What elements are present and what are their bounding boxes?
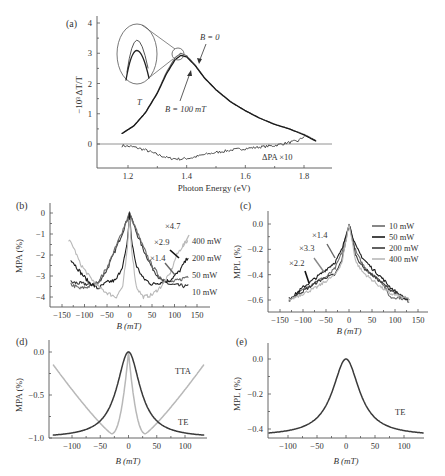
arrowhead-b0 xyxy=(197,58,202,64)
y-tick-label: −4 xyxy=(36,292,46,302)
x-tick-label: −50 xyxy=(100,310,113,320)
x-tick-label: −150 xyxy=(271,315,289,325)
y-tick-label: −0.2 xyxy=(248,389,263,399)
y-tick-label: 2 xyxy=(88,79,92,89)
x-tick-label: −50 xyxy=(310,441,323,451)
y-axis-title-a: −10³ ΔT/T xyxy=(74,76,84,114)
legend-c: 10 mW50 mW200 mW400 mW xyxy=(372,221,419,264)
series-400-mw xyxy=(69,220,188,299)
arrowhead-b100 xyxy=(187,70,192,76)
y-axis-title-e: MPL (%) xyxy=(232,377,242,411)
inset-ellipse xyxy=(117,24,157,84)
y-tick-label: 1 xyxy=(88,109,92,119)
label-b100: B = 100 mT xyxy=(165,104,207,114)
panel-b: (b) −150−100−500501001500−1−2−3−4 B (mT)… xyxy=(14,200,222,331)
x-tick-label: 100 xyxy=(398,441,411,451)
y-tick-label: −2 xyxy=(36,250,45,260)
panel-label-a: (a) xyxy=(66,18,77,30)
legend-b-400: 400 mW xyxy=(192,236,222,246)
x-tick-label: 150 xyxy=(412,315,425,325)
x-tick-label: 50 xyxy=(153,441,162,451)
y-tick-label: −0.6 xyxy=(248,295,263,305)
legend-label: 50 mW xyxy=(389,232,414,242)
y-axis-title-d: MPA (%) xyxy=(14,378,24,412)
label-tta: TTA xyxy=(175,366,192,376)
factor-b-47: ×4.7 xyxy=(165,221,180,231)
x-tick-label: −50 xyxy=(319,315,332,325)
label-te-e: TE xyxy=(395,407,405,417)
legend-b-200: 200 mW xyxy=(192,253,222,263)
panel-label-e: (e) xyxy=(236,336,247,348)
y-tick-label: −3 xyxy=(36,271,45,281)
figure: (a) 1.21.41.61.801234 Photon Energy (eV)… xyxy=(0,0,445,476)
y-tick-label: 4 xyxy=(88,18,93,28)
factor-b-29: ×2.9 xyxy=(154,237,169,247)
panel-label-b: (b) xyxy=(16,200,28,212)
arrow-b100 xyxy=(180,73,190,101)
x-axis-title-a: Photon Energy (eV) xyxy=(178,183,250,193)
panel-a: (a) 1.21.41.61.801234 Photon Energy (eV)… xyxy=(66,16,332,193)
y-tick-label: −1 xyxy=(36,229,45,239)
y-tick-label: 0 xyxy=(41,208,45,218)
panel-label-d: (d) xyxy=(16,336,28,348)
x-tick-label: 100 xyxy=(179,441,192,451)
legend-b-10: 10 mW xyxy=(192,287,217,297)
x-tick-label: 1.4 xyxy=(181,171,192,181)
factor-c-33: ×3.3 xyxy=(299,243,314,253)
label-T: T xyxy=(137,97,143,107)
y-axis-title-b: MPA (%) xyxy=(14,239,24,273)
x-tick-label: 1.6 xyxy=(240,171,251,181)
arrow-c-14 xyxy=(327,244,335,258)
x-tick-label: 0 xyxy=(127,310,131,320)
y-tick-label: 0.0 xyxy=(252,354,263,364)
x-tick-label: 0 xyxy=(126,441,130,451)
y-tick-label: −0.4 xyxy=(248,270,264,280)
panel-label-c: (c) xyxy=(240,200,251,212)
legend-label: 10 mW xyxy=(389,221,414,231)
x-tick-label: 100 xyxy=(389,315,402,325)
legend-label: 400 mW xyxy=(389,254,419,264)
x-tick-label: 0 xyxy=(344,441,348,451)
x-tick-label: 50 xyxy=(148,310,157,320)
panel-e: (e) −100−500501000.0−0.2−0.4 B (mT) MPL … xyxy=(232,336,424,466)
series-te xyxy=(269,359,423,433)
factor-c-14: ×1.4 xyxy=(312,230,328,240)
y-tick-label: −0.4 xyxy=(248,424,264,434)
x-axis-title-d: B (mT) xyxy=(115,456,140,466)
x-tick-label: −100 xyxy=(279,441,297,451)
x-tick-label: 0 xyxy=(347,315,351,325)
arrow-c-33 xyxy=(314,258,324,272)
x-tick-label: 1.2 xyxy=(123,171,134,181)
x-tick-label: −100 xyxy=(63,441,81,451)
x-tick-label: 50 xyxy=(371,441,380,451)
factor-b-14: ×1.4 xyxy=(150,253,166,263)
factor-c-22: ×2.2 xyxy=(289,258,304,268)
x-tick-label: −50 xyxy=(94,441,107,451)
y-tick-label: 0 xyxy=(88,139,92,149)
y-tick-label: −0.2 xyxy=(248,244,263,254)
y-tick-label: 0.0 xyxy=(33,347,44,357)
x-tick-label: −100 xyxy=(76,310,94,320)
y-axis-title-c: MPL (%) xyxy=(232,245,242,279)
legend-label: 200 mW xyxy=(389,243,419,253)
curves-e xyxy=(269,359,423,433)
x-tick-label: −150 xyxy=(53,310,71,320)
legend-b-50: 50 mW xyxy=(192,270,217,280)
x-tick-label: −100 xyxy=(294,315,312,325)
y-tick-label: 3 xyxy=(88,48,92,58)
panel-c: (c) −150−100−500501001500.0−0.2−0.4−0.6 … xyxy=(232,200,428,336)
y-tick-label: −1.0 xyxy=(29,433,44,443)
arrow-c-22 xyxy=(305,271,309,283)
x-axis-title-e: B (mT) xyxy=(333,456,358,466)
x-tick-label: 100 xyxy=(168,310,181,320)
y-tick-label: −0.5 xyxy=(29,390,44,400)
panel-d: (d) −100−500501000.0−0.5−1.0 B (mT) MPA … xyxy=(14,336,207,466)
x-tick-label: 150 xyxy=(191,310,204,320)
x-tick-label: 1.8 xyxy=(299,171,310,181)
y-tick-label: 0.0 xyxy=(252,219,263,229)
label-dpa: ΔPA ×10 xyxy=(262,152,293,162)
label-b0: B = 0 xyxy=(200,32,220,42)
ticks-e: −100−500501000.0−0.2−0.4 xyxy=(248,354,411,451)
x-tick-label: 50 xyxy=(368,315,377,325)
x-axis-title-c: B (mT) xyxy=(336,326,361,336)
